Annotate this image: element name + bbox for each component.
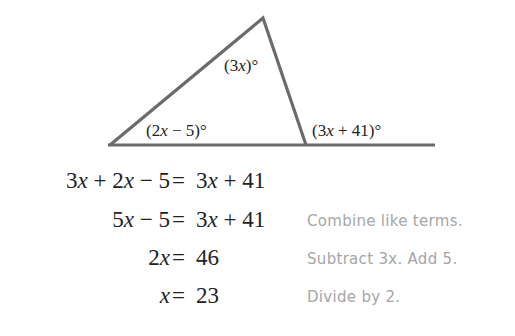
equation-lhs: x (160, 283, 170, 309)
step-note: Divide by 2. (307, 288, 400, 306)
equation-step-3: 2x = 46 Subtract 3x. Add 5. (0, 245, 515, 275)
equation-rhs: 46 (196, 245, 219, 271)
exterior-angle-label: (3x + 41)° (312, 121, 381, 141)
equals-sign: = (172, 283, 185, 309)
equals-sign: = (172, 168, 185, 194)
step-note: Combine like terms. (307, 212, 463, 230)
apex-angle-label: (3x)° (224, 56, 258, 76)
equation-lhs: 5x − 5 (112, 207, 170, 233)
equation-step-2: 5x − 5 = 3x + 41 Combine like terms. (0, 207, 515, 237)
equation-rhs: 3x + 41 (196, 207, 265, 233)
base-angle-label: (2x − 5)° (146, 121, 207, 141)
equation-lhs: 2x (148, 245, 170, 271)
step-note: Subtract 3x. Add 5. (307, 250, 457, 268)
triangle-diagram (0, 0, 515, 160)
equals-sign: = (172, 245, 185, 271)
equation-step-1: 3x + 2x − 5 = 3x + 41 (0, 168, 515, 198)
equals-sign: = (172, 207, 185, 233)
equation-rhs: 23 (196, 283, 219, 309)
equation-rhs: 3x + 41 (196, 168, 265, 194)
equation-step-4: x = 23 Divide by 2. (0, 283, 515, 313)
triangle-sides (110, 18, 306, 145)
triangle-figure: (3x)° (2x − 5)° (3x + 41)° (0, 0, 515, 160)
equation-lhs: 3x + 2x − 5 (66, 168, 170, 194)
